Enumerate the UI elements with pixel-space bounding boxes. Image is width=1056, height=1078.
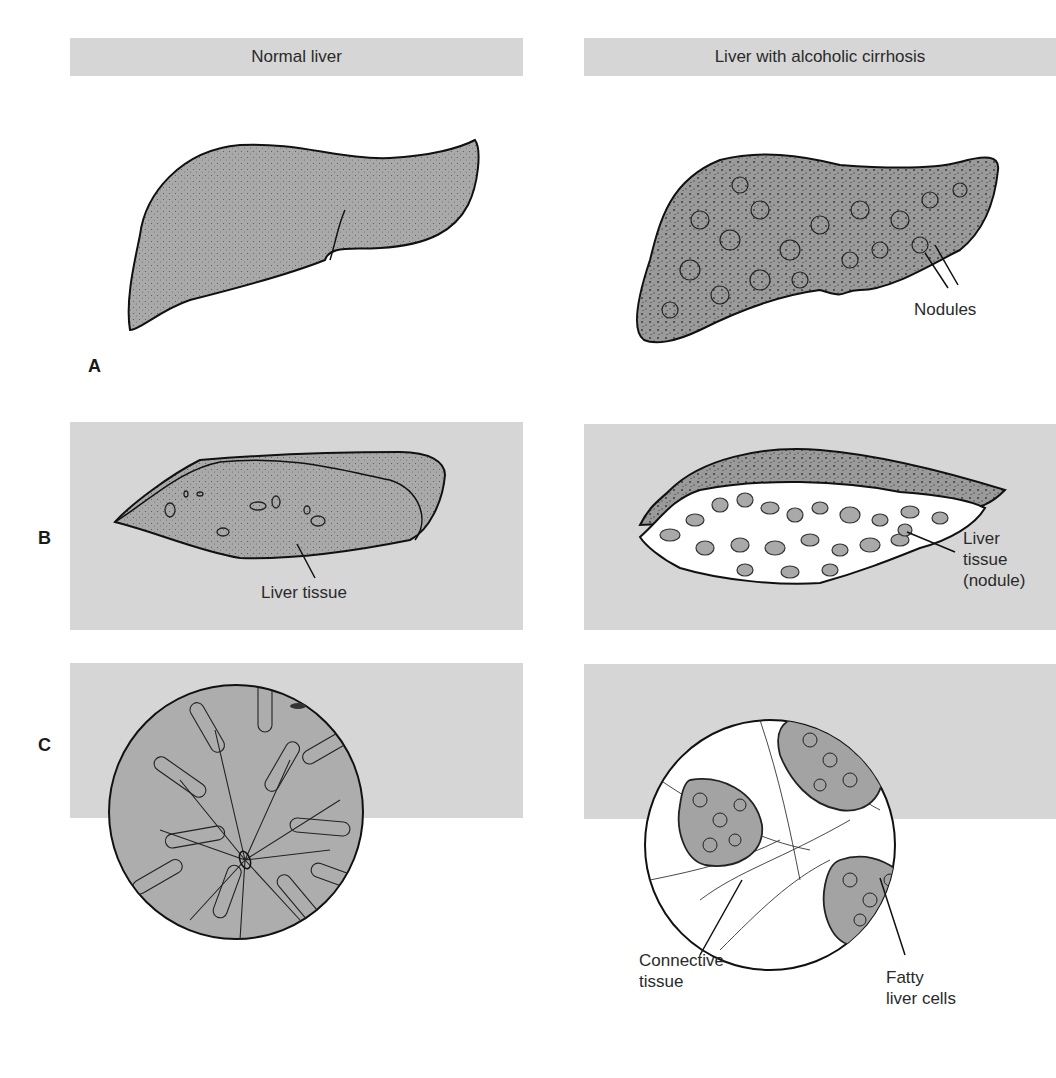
liver-illustrations [0, 0, 1056, 1078]
cirrhotic-liver-histology-illustration [645, 717, 912, 970]
label-liver-tissue-nodule-line3: (nodule) [963, 570, 1025, 591]
label-connective-tissue-line2: tissue [639, 971, 724, 992]
label-nodules: Nodules [914, 299, 976, 320]
row-label-b: B [38, 528, 51, 549]
label-fatty-liver-cells: Fatty liver cells [886, 967, 956, 1009]
label-liver-tissue-nodule: Liver tissue (nodule) [963, 528, 1025, 591]
normal-liver-illustration [129, 140, 479, 330]
label-fatty-liver-cells-line1: Fatty [886, 967, 956, 988]
label-liver-tissue-nodule-line1: Liver [963, 528, 1025, 549]
row-label-c: C [38, 735, 51, 756]
label-liver-tissue: Liver tissue [261, 582, 347, 603]
label-connective-tissue: Connective tissue [639, 950, 724, 992]
label-connective-tissue-line1: Connective [639, 950, 724, 971]
row-label-a: A [88, 356, 101, 377]
cirrhotic-liver-slice-illustration [640, 449, 1005, 584]
normal-liver-histology-illustration [109, 682, 366, 940]
label-fatty-liver-cells-line2: liver cells [886, 988, 956, 1009]
label-liver-tissue-nodule-line2: tissue [963, 549, 1025, 570]
normal-liver-slice-illustration [115, 452, 445, 578]
